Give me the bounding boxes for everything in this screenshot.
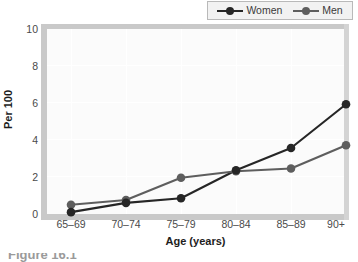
legend-entry-women: Women: [217, 5, 282, 16]
figure-caption: Figure 16.1: [0, 253, 358, 262]
x-tick-80-84: 80–84: [206, 219, 266, 230]
x-axis-tick-labels: 65–69 70–74 75–79 80–84 85–89 90+: [0, 219, 358, 233]
y-tick-4: 4: [12, 135, 38, 146]
x-tick-85-89: 85–89: [261, 219, 321, 230]
axis-spine-right: [344, 24, 349, 220]
y-axis-title: Per 100: [3, 80, 14, 140]
data-point: [122, 199, 131, 208]
data-point: [177, 173, 186, 182]
series-markers-women: [67, 100, 351, 216]
data-point: [287, 164, 296, 173]
y-tick-2: 2: [12, 172, 38, 183]
x-tick-70-74: 70–74: [96, 219, 156, 230]
data-point: [342, 141, 351, 150]
x-tick-65-69: 65–69: [41, 219, 101, 230]
data-point: [67, 200, 76, 209]
y-tick-8: 8: [12, 61, 38, 72]
y-tick-10: 10: [12, 24, 38, 35]
legend-marker-women-icon: [217, 6, 243, 16]
data-point: [177, 194, 186, 203]
data-point: [342, 100, 351, 109]
data-point: [232, 166, 241, 175]
figure-caption-text: Figure 16.1: [8, 253, 77, 261]
legend-marker-men-icon: [293, 6, 319, 16]
plot-area: [47, 28, 344, 214]
series-line-women: [71, 104, 346, 212]
x-tick-75-79: 75–79: [151, 219, 211, 230]
chart-series-layer: [47, 28, 344, 214]
chart-legend: Women Men: [207, 1, 353, 20]
y-tick-6: 6: [12, 98, 38, 109]
data-point: [287, 144, 296, 153]
x-tick-90-plus: 90+: [313, 219, 358, 230]
series-line-men: [71, 145, 346, 205]
data-point: [67, 208, 76, 217]
legend-label-women: Women: [246, 5, 282, 16]
y-tick-0: 0: [12, 209, 38, 220]
legend-entry-men: Men: [293, 5, 342, 16]
x-axis-title: Age (years): [47, 236, 344, 247]
legend-label-men: Men: [322, 5, 342, 16]
